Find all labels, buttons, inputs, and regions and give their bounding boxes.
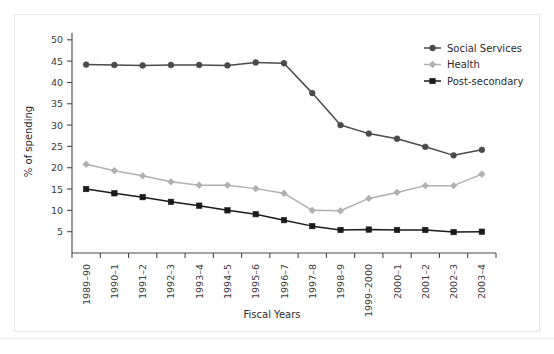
data-point-square — [83, 186, 88, 191]
legend: Social ServicesHealthPost-secondary — [424, 43, 523, 87]
y-tick-label: 30 — [51, 120, 63, 131]
data-point-circle — [281, 60, 287, 66]
data-point-diamond — [111, 167, 118, 174]
x-tick-label: 1995–6 — [250, 264, 261, 299]
data-point-square — [430, 78, 435, 83]
data-point-square — [112, 191, 117, 196]
y-tick-label: 50 — [51, 34, 63, 45]
data-point-circle — [112, 62, 118, 68]
data-point-circle — [168, 62, 174, 68]
y-tick-label: 40 — [51, 77, 63, 88]
data-point-circle — [140, 62, 146, 68]
x-tick-label: 1994–5 — [222, 264, 233, 299]
data-point-square — [225, 208, 230, 213]
legend-label: Post-secondary — [447, 76, 523, 87]
y-axis-ticks: 5101520253035404550 — [51, 34, 72, 237]
y-tick-label: 45 — [51, 56, 63, 67]
x-tick-label: 1993–4 — [194, 264, 205, 299]
data-point-circle — [479, 147, 485, 153]
x-tick-label: 1989–90 — [81, 264, 92, 305]
data-point-square — [394, 227, 399, 232]
x-tick-label: 1999–2000 — [363, 264, 374, 317]
figure-container: 5101520253035404550% of spending1989–901… — [0, 0, 554, 354]
data-point-circle — [253, 60, 259, 66]
data-point-circle — [83, 62, 89, 68]
series-line — [86, 62, 482, 155]
data-point-circle — [394, 136, 400, 142]
data-point-square — [338, 227, 343, 232]
data-point-diamond — [429, 61, 436, 68]
data-point-diamond — [83, 161, 90, 168]
x-axis-ticks: 1989–901990–11991–21992–31993–41994–5199… — [72, 253, 496, 317]
figure-bottom-strip — [0, 338, 554, 354]
x-tick-label: 2002–3 — [448, 264, 459, 299]
y-tick-label: 25 — [51, 141, 63, 152]
y-axis-title: % of spending — [23, 106, 34, 177]
data-point-circle — [196, 62, 202, 68]
data-point-diamond — [394, 189, 401, 196]
y-tick-label: 5 — [57, 226, 63, 237]
data-point-square — [310, 223, 315, 228]
data-point-circle — [422, 144, 428, 150]
data-point-diamond — [168, 178, 175, 185]
x-tick-label: 2001–2 — [420, 264, 431, 299]
data-point-square — [140, 194, 145, 199]
data-point-square — [479, 229, 484, 234]
x-tick-label: 1991–2 — [137, 264, 148, 299]
x-tick-label: 2003–4 — [476, 264, 487, 299]
data-point-square — [168, 199, 173, 204]
data-point-square — [423, 227, 428, 232]
data-point-diamond — [281, 190, 288, 197]
data-point-diamond — [365, 195, 372, 202]
data-point-circle — [366, 131, 372, 137]
series-health — [83, 161, 486, 214]
y-tick-label: 15 — [51, 184, 63, 195]
data-point-circle — [225, 62, 231, 68]
legend-item-social-services[interactable]: Social Services — [424, 43, 522, 54]
x-tick-label: 1992–3 — [165, 264, 176, 299]
data-point-diamond — [224, 182, 231, 189]
data-point-diamond — [252, 185, 259, 192]
data-point-circle — [451, 152, 457, 158]
series-social-services — [83, 60, 485, 159]
y-tick-label: 35 — [51, 98, 63, 109]
x-tick-label: 1998–9 — [335, 264, 346, 299]
data-point-square — [197, 203, 202, 208]
data-point-square — [253, 211, 258, 216]
data-point-diamond — [139, 172, 146, 179]
y-tick-label: 20 — [51, 162, 63, 173]
data-point-diamond — [422, 182, 429, 189]
legend-item-health[interactable]: Health — [424, 59, 480, 70]
legend-label: Health — [447, 59, 480, 70]
data-point-square — [451, 229, 456, 234]
data-point-square — [366, 227, 371, 232]
x-tick-label: 1997–8 — [307, 264, 318, 299]
data-point-diamond — [478, 171, 485, 178]
y-tick-label: 10 — [51, 205, 63, 216]
data-point-square — [281, 217, 286, 222]
data-point-diamond — [450, 182, 457, 189]
legend-label: Social Services — [447, 43, 522, 54]
data-point-circle — [309, 90, 315, 96]
x-tick-label: 2000–1 — [392, 264, 403, 299]
data-point-diamond — [196, 182, 203, 189]
series-line — [86, 164, 482, 210]
data-point-diamond — [337, 207, 344, 214]
data-point-diamond — [309, 207, 316, 214]
legend-item-post-secondary[interactable]: Post-secondary — [424, 76, 523, 87]
data-point-circle — [338, 122, 344, 128]
x-axis-title: Fiscal Years — [244, 309, 301, 320]
x-tick-label: 1990–1 — [109, 264, 120, 299]
data-point-circle — [430, 45, 436, 51]
x-tick-label: 1996–7 — [279, 264, 290, 299]
line-chart: 5101520253035404550% of spending1989–901… — [0, 0, 554, 354]
